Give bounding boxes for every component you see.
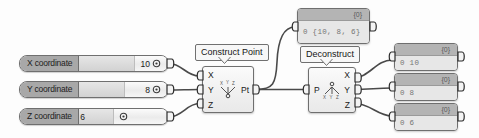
slider-y-track[interactable]: 8 bbox=[79, 82, 168, 97]
port-label-out-y[interactable]: Y bbox=[344, 85, 350, 95]
construct-point-port-z[interactable] bbox=[196, 98, 204, 110]
slider-x-track[interactable]: 10 bbox=[79, 56, 168, 71]
slider-y-label: Y coordinate bbox=[20, 82, 79, 97]
panel-point-header: {0} bbox=[298, 9, 369, 21]
construct-point-port-y[interactable] bbox=[196, 84, 204, 96]
port-label-out-x[interactable]: X bbox=[344, 70, 350, 80]
deconstruct-port-p[interactable] bbox=[302, 84, 310, 96]
slider-z-track[interactable]: 6 bbox=[79, 109, 168, 124]
node-deconstruct[interactable]: P o X Y Z X Y Z bbox=[308, 67, 356, 113]
panel-y-input-port[interactable] bbox=[388, 81, 396, 93]
svg-text:Z: Z bbox=[232, 81, 235, 86]
panel-y-header: {0} bbox=[395, 74, 457, 86]
construct-point-port-pt[interactable] bbox=[252, 84, 261, 96]
slider-x-output-port[interactable] bbox=[166, 58, 176, 70]
slider-knob-icon[interactable] bbox=[152, 59, 161, 68]
callout-deconstruct-tail bbox=[320, 59, 333, 67]
deconstruct-port-z[interactable] bbox=[354, 97, 363, 109]
svg-text:Y: Y bbox=[226, 80, 229, 85]
panel-x-output-port[interactable] bbox=[457, 51, 466, 63]
panel-point-result[interactable]: {0} 0 {10, 8, 6} bbox=[297, 8, 370, 44]
slider-z-output-port[interactable] bbox=[166, 111, 176, 123]
construct-point-output-ports: Pt bbox=[241, 67, 249, 112]
panel-z-text: 0 6 bbox=[395, 116, 457, 130]
slider-z-label: Z coordinate bbox=[20, 109, 79, 124]
slider-x-fill bbox=[79, 56, 135, 71]
panel-z-header: {0} bbox=[395, 104, 457, 116]
slider-knob-icon[interactable] bbox=[152, 85, 161, 94]
slider-y-output-port[interactable] bbox=[166, 84, 176, 96]
panel-x-text: 0 10 bbox=[395, 56, 457, 70]
slider-y-coordinate[interactable]: Y coordinate 8 bbox=[19, 81, 169, 98]
panel-x-input-port[interactable] bbox=[388, 51, 396, 63]
svg-text:X: X bbox=[220, 81, 223, 86]
slider-y-fill bbox=[79, 82, 124, 97]
slider-x-coordinate[interactable]: X coordinate 10 bbox=[19, 55, 169, 72]
construct-point-port-x[interactable] bbox=[196, 70, 204, 82]
port-label-pt[interactable]: Pt bbox=[241, 85, 249, 95]
panel-y-output-port[interactable] bbox=[457, 81, 466, 93]
panel-point-text: 0 {10, 8, 6} bbox=[298, 21, 369, 43]
node-graph-canvas: X coordinate 10 Y coordinate 8 bbox=[0, 0, 479, 138]
slider-x-label: X coordinate bbox=[20, 56, 79, 71]
slider-y-value: 8 bbox=[145, 85, 150, 95]
callout-construct-point: Construct Point bbox=[195, 44, 269, 61]
deconstruct-port-x[interactable] bbox=[354, 72, 363, 84]
panel-point-output-port[interactable] bbox=[369, 21, 378, 33]
callout-construct-point-tail bbox=[218, 57, 231, 65]
slider-x-value: 10 bbox=[141, 59, 150, 69]
port-label-out-z[interactable]: Z bbox=[345, 100, 350, 110]
deconstruct-output-ports: X Y Z bbox=[334, 68, 354, 112]
slider-knob-icon[interactable] bbox=[119, 112, 128, 121]
panel-y-text: 0 8 bbox=[395, 86, 457, 100]
panel-z-input-port[interactable] bbox=[388, 111, 396, 123]
slider-z-coordinate[interactable]: Z coordinate 6 bbox=[19, 108, 169, 125]
slider-z-value: 6 bbox=[80, 112, 85, 122]
deconstruct-port-y[interactable] bbox=[354, 84, 363, 96]
panel-x-header: {0} bbox=[395, 44, 457, 56]
panel-point-input-port[interactable] bbox=[291, 21, 299, 33]
panel-z-result[interactable]: {0} 0 6 bbox=[394, 103, 458, 131]
svg-text:Y: Y bbox=[330, 95, 333, 100]
panel-z-output-port[interactable] bbox=[457, 111, 466, 123]
node-construct-point[interactable]: X Y Z X Y Z Pt bbox=[202, 66, 254, 113]
panel-y-result[interactable]: {0} 0 8 bbox=[394, 73, 458, 101]
svg-text:X: X bbox=[323, 95, 326, 100]
panel-x-result[interactable]: {0} 0 10 bbox=[394, 43, 458, 71]
